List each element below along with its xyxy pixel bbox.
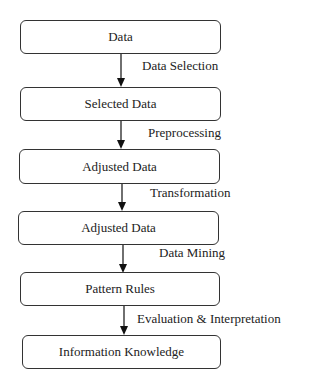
node-label: Pattern Rules [85,281,155,297]
edge-label-evaluation-interpretation: Evaluation & Interpretation [137,311,281,327]
arrowhead-icon [118,202,126,211]
arrowhead-icon [117,78,125,87]
node-pattern-rules: Pattern Rules [20,272,220,306]
edge-label-transformation: Transformation [150,185,230,201]
arrowhead-icon [120,326,128,335]
node-label: Data [108,29,133,45]
edge-label-preprocessing: Preprocessing [148,125,221,141]
node-label: Adjusted Data [82,159,157,175]
node-adjusted-data-2: Adjusted Data [18,211,219,245]
edge-label-data-mining: Data Mining [159,245,225,261]
node-information-knowledge: Information Knowledge [22,335,221,369]
node-label: Selected Data [85,96,157,112]
node-label: Adjusted Data [81,220,156,236]
node-selected-data: Selected Data [20,87,221,121]
edge-label-data-selection: Data Selection [142,58,218,74]
arrowhead-icon [117,140,125,149]
node-label: Information Knowledge [59,344,184,360]
node-data: Data [20,20,221,54]
node-adjusted-data-1: Adjusted Data [19,149,220,184]
